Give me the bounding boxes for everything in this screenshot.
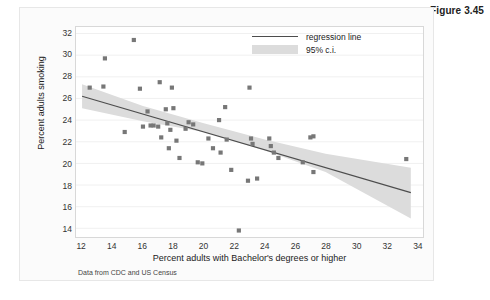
x-tick-32: 32	[375, 241, 399, 251]
figure-screenshot: Figure 3.45 Percent adults smoking 14161…	[0, 0, 490, 300]
y-tick-26: 26	[42, 93, 72, 103]
y-tick-16: 16	[42, 202, 72, 212]
x-tick-16: 16	[130, 241, 154, 251]
x-tick-18: 18	[161, 241, 185, 251]
x-tick-22: 22	[222, 241, 246, 251]
figure-card: Percent adults smoking 14161820222426283…	[19, 7, 434, 281]
regression-line	[82, 96, 411, 192]
legend-band-swatch	[252, 44, 298, 55]
y-tick-22: 22	[42, 137, 72, 147]
scatter-plot-svg	[76, 27, 423, 237]
y-tick-30: 30	[42, 49, 72, 59]
y-tick-14: 14	[42, 224, 72, 234]
y-axis-tick-labels: 14161820222426283032	[40, 26, 72, 238]
legend-line-swatch	[252, 31, 298, 42]
plot-area	[75, 26, 424, 238]
x-tick-28: 28	[314, 241, 338, 251]
x-tick-12: 12	[69, 241, 93, 251]
figure-number-label: Figure 3.45	[430, 5, 484, 16]
source-note: Data from CDC and US Census	[78, 269, 177, 276]
legend-label-ci: 95% c.i.	[306, 45, 336, 55]
x-tick-34: 34	[406, 241, 430, 251]
x-axis-title: Percent adults with Bachelor's degrees o…	[75, 253, 424, 263]
y-tick-18: 18	[42, 181, 72, 191]
x-tick-24: 24	[253, 241, 277, 251]
x-tick-26: 26	[283, 241, 307, 251]
legend-label-regression-line: regression line	[306, 32, 361, 42]
y-tick-24: 24	[42, 115, 72, 125]
gridlines	[76, 33, 423, 228]
legend-item-ci: 95% c.i.	[252, 43, 402, 56]
y-tick-20: 20	[42, 159, 72, 169]
y-tick-32: 32	[42, 28, 72, 38]
legend-item-regression-line: regression line	[252, 30, 402, 43]
confidence-interval-band	[82, 84, 411, 218]
y-tick-28: 28	[42, 71, 72, 81]
x-tick-20: 20	[192, 241, 216, 251]
x-tick-14: 14	[100, 241, 124, 251]
chart-legend: regression line 95% c.i.	[252, 30, 402, 56]
x-tick-30: 30	[345, 241, 369, 251]
